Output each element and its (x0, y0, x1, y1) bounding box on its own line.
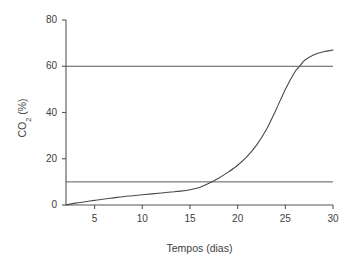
y-axis-title: CO2 (%) (16, 98, 33, 137)
x-tick-label: 5 (75, 214, 115, 224)
y-tick-marks (62, 20, 66, 205)
x-tick-label: 20 (218, 214, 258, 224)
chart-canvas: CO2 (%) (0, 0, 347, 269)
x-tick-label: 25 (265, 214, 305, 224)
x-tick-label: 15 (170, 214, 210, 224)
y-tick-label: 20 (0, 154, 57, 164)
x-axis-title: Tempos (dias) (66, 243, 333, 254)
co2-time-chart: CO2 (%) 020406080 51015202530 Tempos (di… (0, 0, 347, 269)
y-tick-label: 40 (0, 108, 57, 118)
y-tick-label: 80 (0, 15, 57, 25)
y-tick-label: 0 (0, 200, 57, 210)
axes-group (66, 20, 333, 205)
x-tick-label: 30 (313, 214, 347, 224)
y-tick-label: 60 (0, 61, 57, 71)
x-tick-label: 10 (122, 214, 162, 224)
x-tick-marks (95, 205, 333, 209)
reference-lines (66, 66, 333, 182)
